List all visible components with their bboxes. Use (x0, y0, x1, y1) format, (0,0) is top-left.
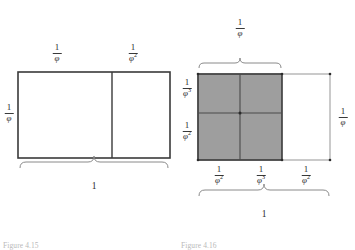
label-bottom-second-width: 1 φ3 (257, 165, 266, 185)
label-bottom-first-width: 1 φ2 (215, 165, 224, 185)
corner-dot (281, 73, 284, 76)
center-dot (239, 112, 242, 115)
corner-dot (281, 159, 284, 162)
label-bottom-total: 1 (92, 181, 97, 191)
top-brace (199, 58, 281, 68)
label-bottom-total: 1 (262, 209, 267, 219)
figure-left-caption: Figure 4.15 (3, 241, 39, 250)
figure-right-caption: Figure 4.16 (181, 241, 217, 250)
bottom-brace (199, 184, 329, 196)
corner-dot (197, 159, 200, 162)
corner-dot (329, 73, 332, 76)
label-bottom-third-width: 1 φ2 (302, 165, 311, 185)
label-top-left-width: 1 φ (53, 43, 62, 63)
label-right-height: 1 φ (339, 107, 348, 127)
label-top-right-width: 1 φ2 (129, 43, 138, 63)
corner-dot (197, 73, 200, 76)
corner-dot (329, 159, 332, 162)
figure-left-panel: 1 φ 1 φ2 1 φ 1 Figure 4.15 (0, 0, 178, 248)
outer-rectangle (18, 72, 170, 158)
figure-right-panel: 1 φ 1 φ3 1 φ2 1 φ 1 φ2 1 φ3 1 φ2 1 Figur… (178, 0, 355, 248)
label-left-lower-height: 1 φ2 (183, 121, 192, 141)
label-left-upper-height: 1 φ3 (183, 78, 192, 98)
label-top-brace-width: 1 φ (236, 18, 245, 38)
figure-left-drawing (0, 0, 178, 248)
label-left-height: 1 φ (5, 103, 14, 123)
